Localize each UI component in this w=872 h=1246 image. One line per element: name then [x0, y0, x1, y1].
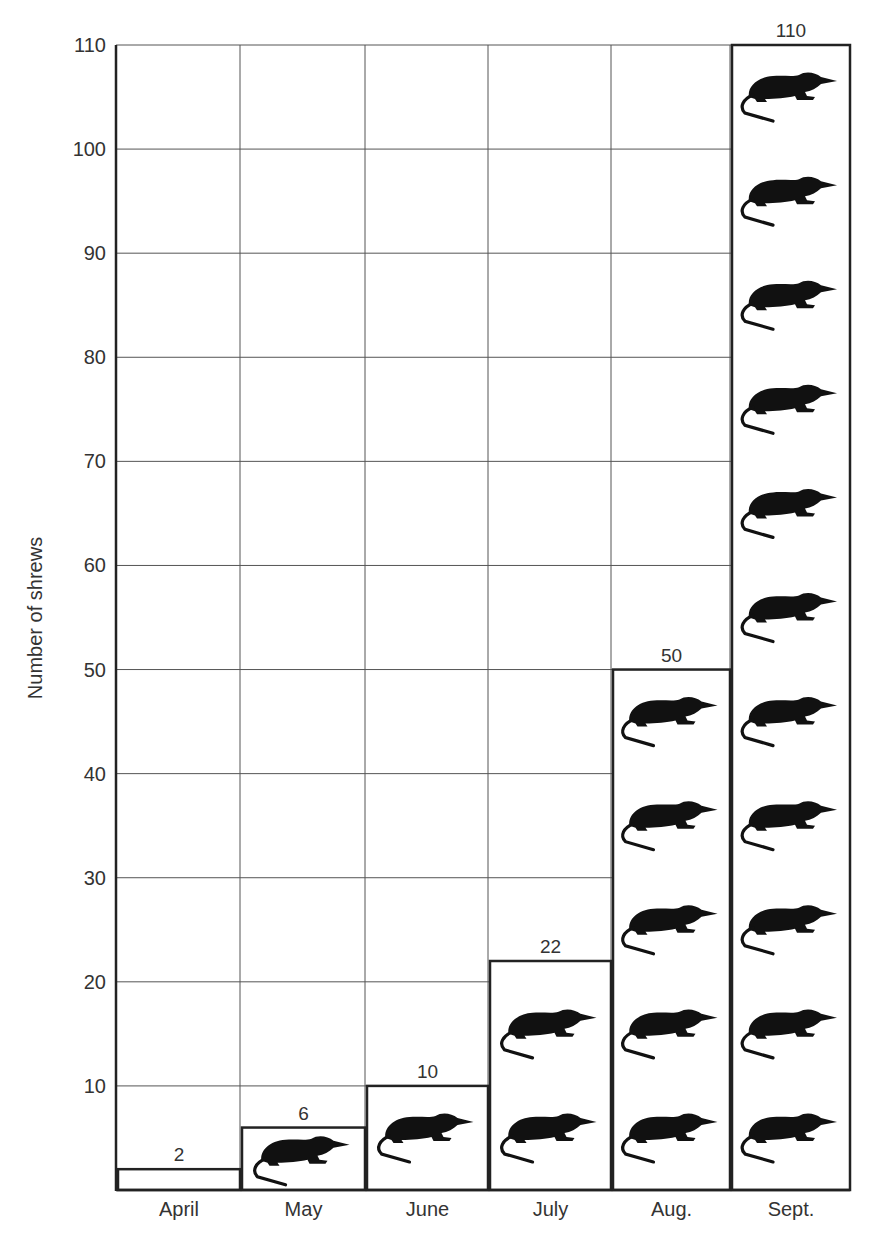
y-axis: 102030405060708090100110 [73, 34, 116, 1191]
bars: 26102250110 [118, 20, 850, 1190]
x-tick-label: Aug. [651, 1198, 692, 1220]
x-tick-label: July [533, 1198, 569, 1220]
y-tick-label: 110 [74, 34, 106, 56]
value-label: 22 [540, 936, 561, 957]
value-label: 6 [298, 1103, 309, 1124]
y-tick-label: 70 [84, 450, 106, 472]
value-label: 2 [174, 1144, 185, 1165]
y-tick-label: 100 [73, 138, 106, 160]
y-tick-label: 30 [84, 867, 106, 889]
y-tick-label: 90 [84, 242, 106, 264]
x-axis: AprilMayJuneJulyAug.Sept. [116, 1190, 850, 1220]
x-tick-label: April [159, 1198, 199, 1220]
y-axis-title: Number of shrews [24, 537, 46, 699]
y-tick-label: 40 [84, 763, 106, 785]
value-label: 110 [776, 20, 806, 41]
shrew-pictograph-chart: 26102250110 102030405060708090100110 Apr… [0, 0, 872, 1246]
value-label: 50 [661, 645, 682, 666]
y-tick-label: 60 [84, 554, 106, 576]
x-tick-label: June [406, 1198, 449, 1220]
y-tick-label: 20 [84, 971, 106, 993]
y-tick-label: 10 [84, 1075, 106, 1097]
bar-april [118, 1169, 240, 1190]
x-tick-label: May [285, 1198, 323, 1220]
y-tick-label: 80 [84, 346, 106, 368]
y-tick-label: 50 [84, 659, 106, 681]
value-label: 10 [417, 1061, 438, 1082]
x-tick-label: Sept. [768, 1198, 815, 1220]
